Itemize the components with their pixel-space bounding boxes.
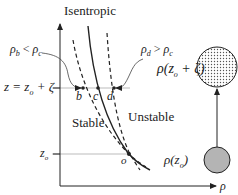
label-d: d [107,90,113,102]
point-o [127,152,131,156]
original-parcel [204,147,230,173]
right-annotation-leader [116,59,143,88]
original-parcel-label: ρ(zo) [164,153,188,170]
label-c: c [93,90,98,102]
diagram-title: Isentropic [64,4,116,17]
left-annotation: ρb < ρc [10,43,42,58]
lower-level-label: zo [40,147,48,162]
label-o: o [121,155,127,166]
label-b: b [76,90,82,102]
unstable-region-label: Unstable [128,110,174,123]
stable-region-label: Stable [72,116,105,129]
stability-diagram [0,0,238,195]
right-annotation: ρd > ρc [141,43,173,58]
stable-profile-curve [73,40,146,167]
upper-level-label: z = zo + ζ [4,80,54,97]
displaced-parcel-label: ρ(zo + ζ) [157,62,205,79]
x-axis-label: ρ [220,180,226,192]
